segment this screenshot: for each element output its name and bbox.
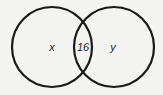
intersection-label: 16 <box>77 41 90 53</box>
venn-diagram: x 16 y <box>0 0 163 95</box>
right-region-label: y <box>109 41 117 53</box>
left-region-label: x <box>48 41 55 53</box>
